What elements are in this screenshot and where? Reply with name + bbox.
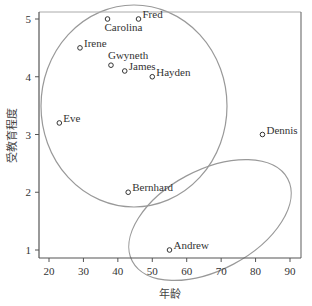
y-tick-label: 5 [26, 13, 32, 25]
data-point [78, 46, 83, 51]
x-tick-label: 20 [44, 265, 56, 277]
point-label: Irene [84, 37, 107, 49]
y-tick-label: 2 [26, 186, 32, 198]
data-point [150, 74, 155, 79]
data-point [109, 63, 114, 68]
data-point [260, 132, 265, 137]
y-axis-title: 受教育程度 [5, 108, 19, 163]
point-label: Eve [63, 112, 80, 124]
y-tick-label: 4 [26, 71, 32, 83]
point-label: Carolina [105, 21, 143, 33]
point-label: Dennis [266, 124, 297, 136]
y-tick-label: 1 [26, 244, 32, 256]
point-label: Bernhard [132, 181, 173, 193]
x-tick-label: 40 [112, 265, 124, 277]
x-tick-label: 90 [285, 265, 297, 277]
data-point [57, 121, 62, 126]
x-tick-label: 30 [78, 265, 90, 277]
x-axis-title: 年龄 [159, 287, 181, 301]
data-point [167, 248, 172, 253]
scatter-chart: 203040506070809012345年龄受教育程度CarolinaFred… [0, 0, 312, 306]
point-label: James [129, 60, 156, 72]
x-tick-label: 70 [216, 265, 228, 277]
cluster-ellipse-upper [41, 5, 227, 207]
data-point [122, 69, 127, 74]
x-tick-label: 50 [147, 265, 159, 277]
cluster-ellipse-lower [109, 135, 311, 306]
point-label: Fred [143, 8, 164, 20]
data-point [126, 190, 131, 195]
y-tick-label: 3 [26, 129, 32, 141]
x-tick-label: 80 [250, 265, 262, 277]
point-label: Andrew [174, 239, 209, 251]
x-tick-label: 60 [181, 265, 193, 277]
point-label: Hayden [156, 66, 191, 78]
